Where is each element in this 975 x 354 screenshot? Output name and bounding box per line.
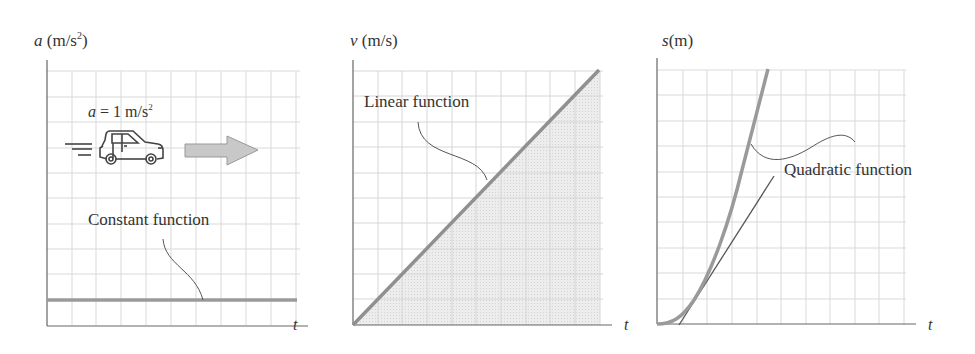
quadratic-function-label: Quadratic function	[784, 160, 912, 179]
grid	[47, 71, 300, 325]
annotation-leader	[163, 239, 203, 300]
x-axis-label: t	[624, 316, 629, 333]
velocity-panel: v (m/s) t Linear function	[350, 31, 629, 333]
grid	[657, 70, 906, 324]
linear-function-label: Linear function	[364, 92, 470, 111]
speed-lines-icon	[65, 144, 92, 155]
axes	[47, 60, 308, 326]
displacement-panel: s(m) t Quadratic function	[657, 31, 933, 333]
acceleration-value-label: a = 1 m/s2	[88, 102, 153, 120]
constant-function-label: Constant function	[88, 210, 210, 229]
x-axis-label: t	[293, 316, 298, 333]
x-axis-label: t	[928, 316, 933, 333]
annotation-leader	[751, 135, 855, 159]
y-axis-label: v (m/s)	[350, 31, 398, 50]
y-axis-label: s(m)	[662, 31, 693, 50]
axes	[657, 58, 916, 324]
acceleration-panel: a (m/s2) t Constant function a = 1 m/s2	[34, 30, 308, 333]
y-axis-label: a (m/s2)	[34, 30, 88, 50]
